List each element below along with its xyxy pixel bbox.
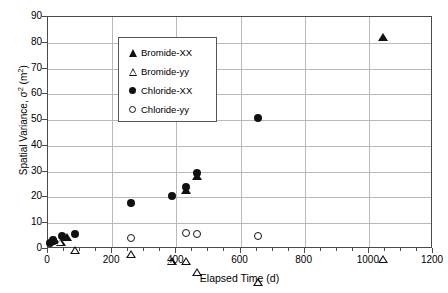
x-tick-label: 800 [284,254,324,265]
data-point-chloride-xx [254,114,262,122]
x-tick-minor [288,248,289,251]
y-tick-mark [42,93,47,94]
x-tick-minor [223,248,224,251]
y-tick-mark [42,171,47,172]
data-point-chloride-xx [58,232,66,240]
legend-label-bromide-xx: Bromide-XX [139,48,192,58]
gridline-horizontal [48,223,431,224]
data-points-layer [48,17,431,81]
y-tick-mark [42,222,47,223]
data-point-chloride-yy [193,230,201,238]
y-tick-label: 10 [18,217,42,227]
x-tick-mark [240,248,241,253]
legend-label-chloride-yy: Chloride-yy [139,105,189,115]
x-tick-label: 600 [220,254,260,265]
legend-label-bromide-yy: Bromide-yy [139,67,189,77]
x-tick-minor [400,248,401,251]
y-tick-mark [42,16,47,17]
x-tick-minor [127,248,128,251]
x-tick-label: 1000 [348,254,388,265]
x-tick-mark [304,248,305,253]
gridline-vertical [305,17,306,247]
data-point-chloride-xx [71,230,79,238]
data-point-chloride-xx [193,169,201,177]
y-tick-label: 0 [18,243,42,253]
circle-filled-icon [126,87,139,95]
x-tick-minor [272,248,273,251]
x-tick-label: 400 [155,254,195,265]
data-point-chloride-xx [127,199,135,207]
gridline-vertical [369,17,370,247]
x-tick-minor [95,248,96,251]
x-tick-mark [111,248,112,253]
plot-area: Bromide-XX Bromide-yy Chloride-XX Chlori… [47,16,432,248]
y-tick-mark [42,196,47,197]
triangle-open-icon [126,68,139,76]
x-tick-minor [79,248,80,251]
legend-item-chloride-xx: Chloride-XX [126,81,216,100]
gridline-vertical [112,17,113,247]
gridline-vertical [241,17,242,247]
x-tick-minor [63,248,64,251]
legend-label-chloride-xx: Chloride-XX [139,86,192,96]
x-tick-minor [191,248,192,251]
circle-open-icon [126,106,139,114]
data-point-chloride-xx [182,183,190,191]
y-tick-label: 90 [18,11,42,21]
x-tick-label: 1200 [412,254,448,265]
x-tick-minor [159,248,160,251]
legend-item-bromide-xx: Bromide-XX [126,43,216,62]
x-tick-minor [256,248,257,251]
x-tick-minor [384,248,385,251]
legend-item-bromide-yy: Bromide-yy [126,62,216,81]
chart-legend: Bromide-XX Bromide-yy Chloride-XX Chlori… [118,37,217,122]
y-tick-mark [42,42,47,43]
gridline-horizontal [48,43,431,44]
gridline-horizontal [48,197,431,198]
gridline-horizontal [48,172,431,173]
data-point-chloride-yy [254,232,262,240]
x-tick-label: 200 [91,254,131,265]
y-axis-title: Spatial Variance, σ2 (m2) [15,35,29,205]
y-tick-mark [42,119,47,120]
x-tick-label: 0 [27,254,67,265]
gridline-horizontal [48,146,431,147]
x-tick-mark [175,248,176,253]
x-tick-minor [143,248,144,251]
x-tick-minor [352,248,353,251]
legend-item-chloride-yy: Chloride-yy [126,100,216,119]
data-point-bromide-xx [378,33,388,41]
gridline-horizontal [48,69,431,70]
gridline-horizontal [48,94,431,95]
x-tick-mark [432,248,433,253]
x-tick-minor [416,248,417,251]
x-tick-minor [336,248,337,251]
triangle-filled-icon [126,49,139,57]
x-tick-minor [207,248,208,251]
data-point-chloride-xx [168,192,176,200]
x-tick-mark [47,248,48,253]
gridline-horizontal [48,120,431,121]
y-tick-mark [42,145,47,146]
data-point-chloride-yy [182,229,190,237]
x-tick-mark [368,248,369,253]
x-tick-minor [320,248,321,251]
x-axis-title: Elapsed Time (d) [47,272,432,284]
data-point-chloride-xx [49,236,57,244]
data-point-chloride-yy [127,234,135,242]
y-tick-mark [42,68,47,69]
